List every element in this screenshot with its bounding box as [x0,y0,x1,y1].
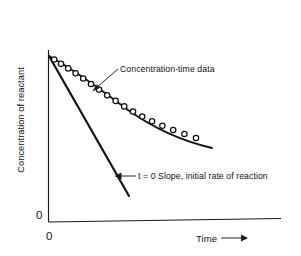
plot-area [0,0,301,256]
curve-annotation-leader [92,69,118,92]
data-point-marker [160,123,165,128]
data-point-marker [88,81,93,86]
data-point-marker [182,131,187,136]
data-point-marker [140,114,145,119]
arrow-right-icon [241,235,248,242]
time-axis-arrow [221,235,248,242]
data-point-marker [81,76,86,81]
y-axis-origin-label: 0 [36,210,42,222]
data-point-marker [193,135,198,140]
data-point-marker [122,104,127,109]
curve-annotation-label: Concentration-time data [120,64,215,74]
data-point-marker [113,98,118,103]
data-point-marker [105,93,110,98]
data-point-marker [66,66,71,71]
x-axis-title: Time [196,233,217,244]
y-axis-title: Concentration of reactant [16,50,26,190]
reaction-rate-figure: 0 0 Concentration of reactant Time Conce… [0,0,301,256]
data-point-marker [73,71,78,76]
data-point-marker [130,109,135,114]
tangent-annotation-label: t = 0 Slope, initial rate of reaction [138,171,268,181]
data-point-marker [52,57,57,62]
data-point-marker [58,61,63,66]
data-point-marker [149,119,154,124]
x-axis-line [49,219,282,223]
x-axis-origin-label: 0 [46,231,52,243]
data-point-marker [171,127,176,132]
